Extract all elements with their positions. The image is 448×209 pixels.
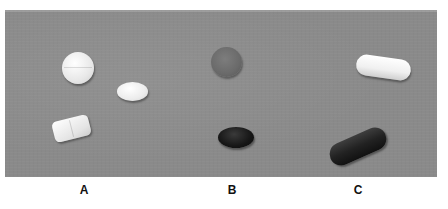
white-rectangular-tablet [51, 114, 92, 143]
white-capsule [355, 53, 412, 81]
white-oval-tablet [117, 82, 148, 101]
panel-label-a: A [74, 183, 94, 197]
dark-capsule [326, 124, 390, 169]
pill-photograph [5, 10, 437, 177]
panel-label-c: C [348, 183, 368, 197]
black-oval-softgel [218, 127, 254, 148]
brown-round-tablet [211, 47, 242, 77]
panel-label-b: B [222, 183, 242, 197]
white-round-tablet [62, 52, 94, 84]
